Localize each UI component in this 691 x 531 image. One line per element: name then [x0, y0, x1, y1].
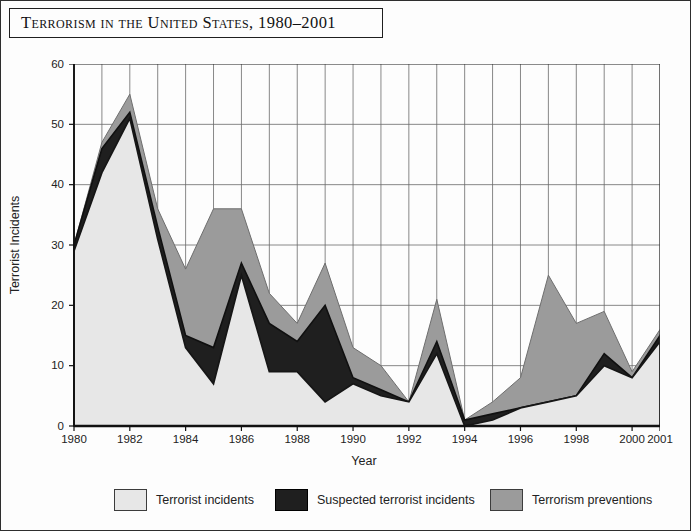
- x-tick-label: 1988: [275, 432, 319, 446]
- legend-swatch-icon: [114, 489, 147, 511]
- legend-label: Terrorism preventions: [532, 493, 652, 507]
- y-tick-label: 10: [32, 358, 64, 373]
- figure-title-box: Terrorism in the United States, 1980–200…: [9, 8, 383, 38]
- figure-page: Terrorism in the United States, 1980–200…: [0, 0, 691, 531]
- legend-item: Terrorism preventions: [490, 488, 652, 511]
- x-tick-label: 1992: [387, 432, 431, 446]
- x-tick-label: 1996: [498, 432, 542, 446]
- y-tick-label: 20: [32, 298, 64, 313]
- y-tick-label: 50: [32, 117, 64, 132]
- figure-title: Terrorism in the United States, 1980–200…: [10, 13, 336, 33]
- x-tick-label: 1986: [219, 432, 263, 446]
- legend-item: Suspected terrorist incidents: [275, 488, 475, 511]
- legend-label: Terrorist incidents: [156, 493, 254, 507]
- y-tick-label: 30: [32, 238, 64, 253]
- x-tick-label: 1990: [331, 432, 375, 446]
- x-tick-label: 2001: [638, 432, 682, 446]
- y-tick-label: 40: [32, 177, 64, 192]
- x-tick-label: 1998: [554, 432, 598, 446]
- legend-label: Suspected terrorist incidents: [317, 493, 475, 507]
- x-tick-label: 1984: [164, 432, 208, 446]
- legend-swatch-icon: [490, 489, 523, 511]
- x-tick-label: 1982: [108, 432, 152, 446]
- y-axis-title: Terrorist Incidents: [8, 175, 22, 315]
- y-tick-label: 60: [32, 57, 64, 72]
- x-tick-label: 1980: [52, 432, 96, 446]
- stacked-area-chart: [68, 64, 660, 432]
- x-tick-label: 1994: [443, 432, 487, 446]
- legend-swatch-icon: [275, 489, 308, 511]
- legend-item: Terrorist incidents: [114, 488, 254, 511]
- x-axis-title: Year: [334, 454, 394, 468]
